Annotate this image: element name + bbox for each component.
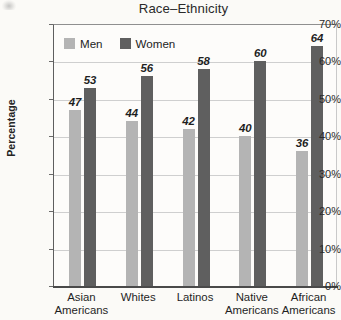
bar-value-label: 40 [239, 122, 251, 134]
bar-group: 4753 [69, 88, 96, 286]
legend-label: Men [80, 37, 103, 50]
bar-men[interactable]: 40 [239, 136, 251, 286]
y-axis-tick-mark [49, 61, 53, 62]
legend-swatch-icon [64, 38, 75, 49]
legend-swatch-icon [120, 38, 131, 49]
y-axis-tick-mark [49, 99, 53, 100]
x-axis-category-label: Whites [110, 291, 167, 304]
bar-women[interactable]: 58 [198, 69, 210, 286]
x-axis-category-label: Asian Americans [53, 291, 110, 318]
bar-men[interactable]: 47 [69, 110, 81, 286]
bar-rect [198, 69, 210, 286]
bar-men[interactable]: 44 [126, 121, 138, 286]
legend-label: Women [136, 37, 176, 50]
bar-rect [126, 121, 138, 286]
bar-group: 4060 [239, 61, 266, 286]
y-axis-tick-label: 20% [295, 205, 341, 217]
bar-rect [69, 110, 81, 286]
y-axis-tick-label: 10% [295, 243, 341, 255]
bar-value-label: 56 [140, 62, 152, 74]
y-axis-tick-mark [49, 24, 53, 25]
bar-women[interactable]: 56 [141, 76, 153, 286]
bar-value-label: 64 [311, 32, 323, 44]
bar-rect [141, 76, 153, 286]
x-axis-category-label: Latinos [167, 291, 224, 304]
bar-value-label: 42 [182, 115, 194, 127]
y-axis-tick-label: 50% [295, 93, 341, 105]
x-axis-category-label: African Americans [280, 291, 337, 318]
bar-value-label: 60 [254, 47, 266, 59]
y-axis-tick-mark [49, 249, 53, 250]
bar-value-label: 58 [197, 55, 209, 67]
bar-men[interactable]: 42 [183, 129, 195, 286]
plot-inner: MenWomen47534456425840603664 [54, 25, 336, 286]
x-axis-category-label: Native Americans [223, 291, 280, 318]
bar-chart: Race–Ethnicity Percentage MenWomen475344… [0, 0, 341, 320]
y-axis-tick-mark [49, 211, 53, 212]
bar-value-label: 47 [69, 96, 81, 108]
bar-rect [239, 136, 251, 286]
y-axis-tick-label: 30% [295, 168, 341, 180]
y-axis-tick-mark [49, 174, 53, 175]
bar-women[interactable]: 60 [254, 61, 266, 286]
bar-rect [254, 61, 266, 286]
y-axis-tick-mark [49, 136, 53, 137]
bar-rect [84, 88, 96, 286]
y-axis-tick-label: 60% [295, 55, 341, 67]
legend: MenWomen [64, 37, 175, 50]
legend-item-men[interactable]: Men [64, 37, 103, 50]
y-axis-tick-label: 70% [295, 18, 341, 30]
gridline [54, 62, 336, 63]
y-axis-tick-label: 40% [295, 130, 341, 142]
bar-group: 4456 [126, 76, 153, 286]
legend-item-women[interactable]: Women [120, 37, 176, 50]
bar-women[interactable]: 53 [84, 88, 96, 286]
y-axis-title: Percentage [5, 90, 17, 166]
bar-rect [183, 129, 195, 286]
bar-value-label: 44 [125, 107, 137, 119]
bar-group: 4258 [183, 69, 210, 286]
bar-value-label: 53 [84, 74, 96, 86]
chart-title: Race–Ethnicity [0, 1, 341, 16]
y-axis-tick-mark [49, 286, 53, 287]
